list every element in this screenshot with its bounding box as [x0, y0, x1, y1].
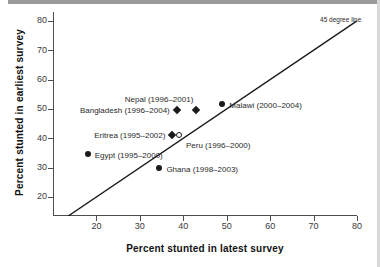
data-point-label: Peru (1996–2000): [186, 141, 251, 150]
x-tick-label-40: 40: [168, 222, 198, 231]
page-top-rule: [8, 0, 380, 4]
y-tick-60: [48, 80, 53, 81]
y-axis-line: [53, 12, 54, 216]
data-point-label: Eritrea (1995–2002): [94, 131, 165, 140]
data-point-marker: [156, 165, 162, 171]
data-point-marker: [192, 106, 200, 114]
x-axis-title: Percent stunted in latest survey: [53, 243, 357, 254]
y-tick-50: [48, 109, 53, 110]
x-tick-label-70: 70: [299, 222, 329, 231]
reference-line-label: 45 degree line: [320, 16, 361, 23]
data-point-label: Egypt (1995–2000): [95, 151, 163, 160]
x-axis-line: [53, 215, 357, 216]
data-point-marker: [219, 101, 225, 107]
x-tick-label-80: 80: [342, 222, 372, 231]
data-point-label: Ghana (1998–2003): [166, 164, 238, 173]
y-tick-80: [48, 21, 53, 22]
data-point-label: Malawi (2000–2004): [229, 101, 302, 110]
plot-area: 20304050607080 20304050607080 Bangladesh…: [53, 12, 357, 216]
data-point-label: Nepal (1996–2001): [125, 95, 194, 104]
x-tick-label-60: 60: [255, 222, 285, 231]
x-tick-label-50: 50: [212, 222, 242, 231]
y-tick-40: [48, 138, 53, 139]
data-point-marker: [176, 132, 182, 138]
y-tick-20: [48, 197, 53, 198]
data-point-marker: [85, 151, 91, 157]
x-tick-label-30: 30: [125, 222, 155, 231]
chart-page: 20304050607080 20304050607080 Bangladesh…: [0, 0, 380, 267]
y-axis-title: Percent stunted in earliest survey: [14, 11, 25, 215]
y-tick-70: [48, 50, 53, 51]
x-tick-label-20: 20: [81, 222, 111, 231]
y-tick-30: [48, 168, 53, 169]
data-point-label: Bangladesh (1996–2004): [80, 106, 170, 115]
data-point-marker: [173, 106, 181, 114]
